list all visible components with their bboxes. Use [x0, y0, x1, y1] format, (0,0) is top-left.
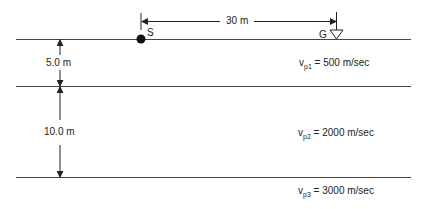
source-icon [137, 35, 146, 44]
velocity-subscript: p3 [303, 191, 311, 198]
diagram-canvas [0, 0, 426, 209]
thickness-1-label: 5.0 m [46, 58, 71, 68]
geophone-label: G [319, 30, 327, 40]
offset-label: 30 m [226, 16, 248, 26]
velocity-value: = 500 m/sec [312, 57, 370, 68]
velocity-subscript: p1 [304, 63, 312, 70]
thickness-2-label: 10.0 m [44, 127, 75, 137]
velocity-value: = 2000 m/sec [311, 127, 374, 138]
velocity-value: = 3000 m/sec [311, 185, 374, 196]
velocity-layer-1: vp1 = 500 m/sec [299, 58, 369, 70]
velocity-layer-3: vp3 = 3000 m/sec [298, 186, 374, 198]
geophone-icon [330, 30, 343, 39]
velocity-subscript: p2 [303, 133, 311, 140]
velocity-layer-2: vp2 = 2000 m/sec [298, 128, 374, 140]
source-label: S [147, 28, 154, 38]
